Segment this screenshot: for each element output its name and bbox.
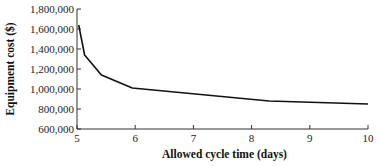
x-tick-label: 8 [249,132,255,144]
y-tick-label: 800,000 [38,103,74,115]
x-axis-title: Allowed cycle time (days) [162,148,287,161]
x-tick-label: 6 [132,132,138,144]
y-axis-title: Equipment cost ($) [4,22,17,115]
y-tick-label: 1,600,000 [30,23,75,35]
y-tick-label: 1,800,000 [30,3,75,15]
line-chart: 600,000800,0001,000,0001,200,0001,400,00… [0,0,380,166]
chart-container: 600,000800,0001,000,0001,200,0001,400,00… [0,0,380,166]
x-tick-label: 5 [74,132,80,144]
x-tick-label: 9 [307,132,313,144]
series-line [79,25,368,104]
y-tick-label: 600,000 [38,123,74,135]
y-tick-label: 1,200,000 [30,63,75,75]
y-tick-label: 1,400,000 [30,43,75,55]
x-tick-label: 10 [363,132,375,144]
y-tick-label: 1,000,000 [30,83,75,95]
x-tick-label: 7 [191,132,197,144]
